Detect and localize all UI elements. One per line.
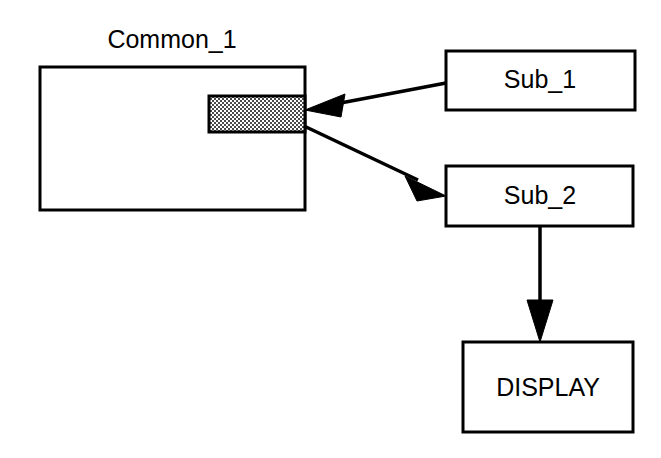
- edge-sub1-to-common: [305, 83, 446, 117]
- common-1-title: Common_1: [107, 25, 236, 53]
- shaded-memory-block: [209, 96, 305, 132]
- display-label: DISPLAY: [496, 373, 600, 401]
- edge-sub2-to-display: [527, 226, 553, 342]
- diagram-svg: Common_1 Sub_1 Sub_2 DISPLAY: [0, 0, 661, 458]
- diagram-canvas: Common_1 Sub_1 Sub_2 DISPLAY: [0, 0, 661, 458]
- edge-common-to-sub2: [304, 126, 446, 201]
- sub-1-label: Sub_1: [504, 65, 576, 93]
- sub-2-label: Sub_2: [504, 181, 576, 209]
- common-1-box: [40, 67, 305, 210]
